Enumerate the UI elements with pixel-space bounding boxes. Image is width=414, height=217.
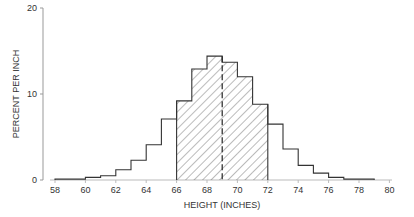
y-tick-label: 0 [32,175,37,185]
x-axis: 586062646668707274767880 [50,180,394,195]
x-tick-label: 58 [50,185,60,195]
x-tick-label: 64 [141,185,151,195]
y-tick-label: 20 [27,3,37,13]
x-axis-label: HEIGHT (INCHES) [184,200,260,210]
x-tick-label: 76 [324,185,334,195]
y-axis: 01020 [27,3,43,185]
x-tick-label: 62 [111,185,121,195]
x-tick-label: 68 [202,185,212,195]
x-tick-label: 66 [172,185,182,195]
x-tick-label: 74 [293,185,303,195]
y-axis-label: PERCENT PER INCH [11,50,21,138]
x-tick-label: 78 [354,185,364,195]
y-tick-label: 10 [27,89,37,99]
x-tick-label: 60 [80,185,90,195]
x-tick-label: 70 [232,185,242,195]
histogram-chart: 01020 586062646668707274767880 HEIGHT (I… [0,0,414,217]
x-tick-label: 72 [263,185,273,195]
x-tick-label: 80 [384,185,394,195]
